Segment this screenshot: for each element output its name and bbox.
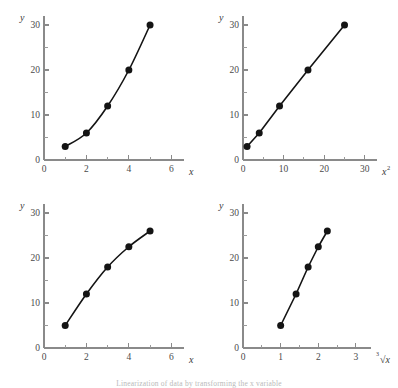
data-point — [341, 22, 348, 29]
y-tick-label: 20 — [31, 253, 41, 263]
data-points-bottom-left — [62, 228, 154, 330]
y-axis-title: y — [218, 12, 224, 23]
x-tick-label: 6 — [169, 164, 174, 174]
chart-panel-top-right: 0102030 0102030 y x 2 — [199, 0, 398, 190]
axes-top-left — [44, 16, 184, 160]
radical-index-label: 3 — [376, 351, 379, 357]
x-ticklabels-bottom-right: 0123 — [241, 352, 359, 362]
x-axis-title: x — [188, 354, 194, 365]
y-ticks-bottom-right — [243, 213, 248, 348]
x-ticks-top-left — [44, 155, 171, 160]
data-point — [147, 228, 154, 235]
data-point — [104, 264, 111, 271]
x-axis-title-radical-group: 3 √x — [376, 351, 390, 365]
data-point — [104, 103, 111, 110]
chart-panel-bottom-left: 0102030 0246 y x — [0, 188, 199, 378]
figure-caption: Linearization of data by transforming th… — [0, 379, 398, 388]
chart-panel-top-left: 0102030 0246 y x — [0, 0, 199, 190]
x-tick-label: 4 — [126, 164, 131, 174]
x-tick-label: 0 — [42, 352, 47, 362]
y-axis-title: y — [218, 200, 224, 211]
data-points-bottom-right — [277, 228, 331, 330]
data-point — [277, 322, 284, 329]
plot-svg-bottom-left: 0102030 0246 y x — [0, 188, 199, 378]
y-tick-label: 20 — [230, 65, 240, 75]
x-ticks-top-right — [243, 155, 365, 160]
data-point — [324, 228, 331, 235]
y-tick-label: 10 — [230, 110, 240, 120]
y-tick-label: 10 — [230, 298, 240, 308]
data-point — [244, 143, 251, 150]
y-ticklabels-bottom-right: 0102030 — [230, 208, 240, 353]
plot-svg-top-left: 0102030 0246 y x — [0, 0, 199, 190]
data-curve — [247, 25, 344, 147]
x-axis-title: x — [188, 166, 194, 177]
data-point — [276, 103, 283, 110]
x-tick-label: 0 — [42, 164, 47, 174]
y-tick-label: 30 — [230, 208, 240, 218]
x-tick-label: 6 — [169, 352, 174, 362]
data-point — [62, 143, 69, 150]
y-ticks-top-left — [44, 25, 49, 160]
data-point — [83, 291, 90, 298]
chart-panel-bottom-right: 0102030 0123 y 3 √x — [199, 188, 398, 378]
y-tick-label: 20 — [230, 253, 240, 263]
x-tick-label: 3 — [354, 352, 359, 362]
figure-root: 0102030 0246 y x 0102030 0102030 y x 2 — [0, 0, 398, 388]
y-tick-label: 0 — [35, 155, 40, 165]
y-tick-label: 20 — [31, 65, 41, 75]
x-ticks-bottom-left — [44, 343, 171, 348]
x-axis-title-radical: √x — [380, 354, 390, 365]
y-tick-label: 0 — [234, 155, 239, 165]
data-curve — [65, 25, 150, 147]
x-axis-title-superscript: 2 — [387, 164, 390, 171]
data-point — [293, 291, 300, 298]
x-tick-label: 10 — [279, 164, 289, 174]
data-point — [305, 264, 312, 271]
data-point — [62, 322, 69, 329]
data-points-top-left — [62, 22, 154, 151]
y-ticks-top-right — [243, 25, 248, 160]
x-tick-label: 2 — [84, 164, 89, 174]
x-tick-label: 0 — [241, 164, 246, 174]
data-point — [304, 67, 311, 74]
data-point — [147, 22, 154, 29]
data-curve — [65, 231, 150, 326]
x-ticklabels-bottom-left: 0246 — [42, 352, 174, 362]
x-tick-label: 30 — [360, 164, 370, 174]
y-tick-label: 10 — [31, 110, 41, 120]
data-point — [125, 67, 132, 74]
y-tick-label: 30 — [230, 20, 240, 30]
data-point — [315, 243, 322, 250]
y-ticklabels-bottom-left: 0102030 — [31, 208, 41, 353]
y-tick-label: 30 — [31, 208, 41, 218]
y-tick-label: 0 — [234, 343, 239, 353]
x-tick-label: 2 — [84, 352, 89, 362]
data-point — [256, 130, 263, 137]
x-tick-label: 2 — [316, 352, 321, 362]
data-point — [125, 243, 132, 250]
y-tick-label: 0 — [35, 343, 40, 353]
data-point — [83, 130, 90, 137]
y-ticklabels-top-right: 0102030 — [230, 20, 240, 165]
y-ticks-bottom-left — [44, 213, 49, 348]
x-tick-label: 4 — [126, 352, 131, 362]
y-axis-title: y — [19, 200, 25, 211]
x-tick-label: 0 — [241, 352, 246, 362]
plot-svg-top-right: 0102030 0102030 y x 2 — [199, 0, 398, 190]
axes-bottom-right — [243, 204, 371, 348]
x-tick-label: 20 — [319, 164, 329, 174]
figure-caption-strip: Linearization of data by transforming th… — [0, 379, 398, 388]
axes-top-right — [243, 16, 377, 160]
x-tick-label: 1 — [278, 352, 283, 362]
y-ticklabels-top-left: 0102030 — [31, 20, 41, 165]
y-tick-label: 10 — [31, 298, 41, 308]
x-ticklabels-top-left: 0246 — [42, 164, 174, 174]
x-ticklabels-top-right: 0102030 — [241, 164, 370, 174]
plot-svg-bottom-right: 0102030 0123 y 3 √x — [199, 188, 398, 378]
y-tick-label: 30 — [31, 20, 41, 30]
y-axis-title: y — [19, 12, 25, 23]
x-ticks-bottom-right — [243, 343, 356, 348]
